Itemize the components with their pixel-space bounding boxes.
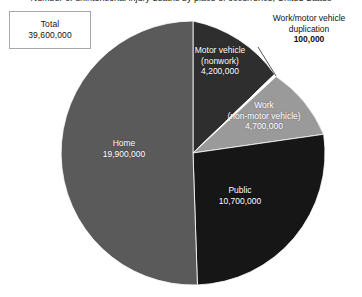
- chart-page: Number of unintentional injury deaths by…: [0, 0, 362, 297]
- slice-label-home-line1: Home: [78, 138, 170, 149]
- slice-label-work-line2: (non-motor vehicle): [216, 111, 312, 122]
- slice-label-motor-vehicle-value: 4,200,000: [178, 66, 262, 77]
- duplication-annotation-line2: duplication: [258, 24, 360, 35]
- duplication-annotation-line1: Work/motor vehicle: [258, 13, 360, 24]
- slice-label-work: Work (non-motor vehicle) 4,700,000: [216, 100, 312, 132]
- duplication-annotation: Work/motor vehicle duplication 100,000: [258, 13, 360, 45]
- duplication-annotation-value: 100,000: [258, 34, 360, 45]
- slice-label-home-value: 19,900,000: [78, 149, 170, 160]
- slice-label-home: Home 19,900,000: [78, 138, 170, 159]
- slice-label-public-value: 10,700,000: [196, 196, 284, 207]
- slice-label-motor-vehicle-line2: (nonwork): [178, 56, 262, 67]
- slice-label-work-line1: Work: [216, 100, 312, 111]
- slice-label-work-value: 4,700,000: [216, 121, 312, 132]
- pie-slice-public[interactable]: [193, 134, 325, 285]
- slice-label-motor-vehicle: Motor vehicle (nonwork) 4,200,000: [178, 45, 262, 77]
- slice-label-public-line1: Public: [196, 185, 284, 196]
- slice-label-motor-vehicle-line1: Motor vehicle: [178, 45, 262, 56]
- slice-label-public: Public 10,700,000: [196, 185, 284, 206]
